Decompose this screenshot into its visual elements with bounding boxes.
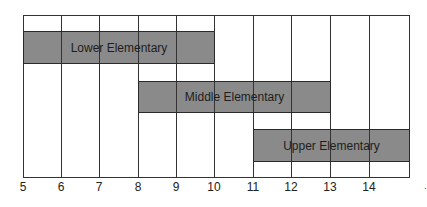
bar-label: Upper Elementary bbox=[283, 139, 380, 153]
x-tick: 8 bbox=[135, 180, 142, 194]
bar-upper-elementary: Upper Elementary bbox=[253, 129, 410, 162]
x-tick: 9 bbox=[173, 180, 180, 194]
x-tick: 13 bbox=[323, 180, 336, 194]
x-tick: 5 bbox=[20, 180, 27, 194]
bar-middle-elementary: Middle Elementary bbox=[138, 81, 331, 113]
bar-label: Middle Elementary bbox=[185, 90, 284, 104]
x-tick: 10 bbox=[207, 180, 220, 194]
x-tick: 7 bbox=[96, 180, 103, 194]
x-tick: 11 bbox=[247, 180, 259, 194]
footnote-mark: . bbox=[424, 180, 427, 191]
x-tick: 6 bbox=[58, 180, 65, 194]
x-tick: 14 bbox=[362, 180, 375, 194]
age-range-chart: Lower Elementary Middle Elementary Upper… bbox=[0, 0, 427, 207]
bar-label: Lower Elementary bbox=[71, 41, 168, 55]
x-tick: 12 bbox=[284, 180, 297, 194]
bar-lower-elementary: Lower Elementary bbox=[23, 31, 215, 64]
